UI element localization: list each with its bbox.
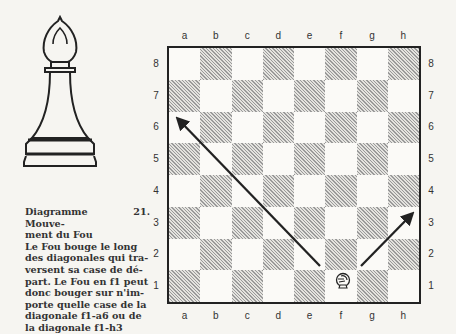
square-d7 — [263, 80, 294, 112]
chessboard — [167, 46, 421, 304]
rank-label: 1 — [425, 280, 437, 291]
square-d8 — [263, 48, 294, 80]
square-c2 — [232, 239, 263, 271]
rank-label: 7 — [150, 90, 162, 101]
square-a2 — [169, 239, 200, 271]
square-d1 — [263, 270, 294, 302]
square-b7 — [200, 80, 231, 112]
square-b2 — [200, 239, 231, 271]
rank-label: 6 — [150, 121, 162, 132]
rank-label: 8 — [425, 58, 437, 69]
square-d4 — [263, 175, 294, 207]
rank-label: 6 — [425, 121, 437, 132]
square-h1 — [388, 270, 419, 302]
rank-label: 8 — [150, 58, 162, 69]
square-e7 — [294, 80, 325, 112]
file-label: g — [362, 30, 382, 41]
square-f6 — [325, 112, 356, 144]
square-h6 — [388, 112, 419, 144]
file-label: a — [175, 30, 195, 41]
square-c8 — [232, 48, 263, 80]
square-f7 — [325, 80, 356, 112]
square-e5 — [294, 143, 325, 175]
square-g7 — [357, 80, 388, 112]
square-d6 — [263, 112, 294, 144]
square-c1 — [232, 270, 263, 302]
file-label: e — [300, 310, 320, 321]
rank-label: 4 — [425, 185, 437, 196]
square-d2 — [263, 239, 294, 271]
square-a4 — [169, 175, 200, 207]
square-a5 — [169, 143, 200, 175]
square-c6 — [232, 112, 263, 144]
square-e8 — [294, 48, 325, 80]
square-g6 — [357, 112, 388, 144]
square-e2 — [294, 239, 325, 271]
square-g2 — [357, 239, 388, 271]
square-g5 — [357, 143, 388, 175]
square-f1 — [325, 270, 356, 302]
rank-label: 7 — [425, 90, 437, 101]
file-label: b — [206, 310, 226, 321]
file-label: h — [393, 310, 413, 321]
square-f8 — [325, 48, 356, 80]
rank-label: 3 — [425, 217, 437, 228]
square-b6 — [200, 112, 231, 144]
square-f3 — [325, 207, 356, 239]
square-h3 — [388, 207, 419, 239]
square-c7 — [232, 80, 263, 112]
square-d5 — [263, 143, 294, 175]
square-a7 — [169, 80, 200, 112]
rank-label: 3 — [150, 217, 162, 228]
square-e6 — [294, 112, 325, 144]
file-label: h — [393, 30, 413, 41]
square-b4 — [200, 175, 231, 207]
square-a1 — [169, 270, 200, 302]
square-g1 — [357, 270, 388, 302]
rank-label: 4 — [150, 185, 162, 196]
square-f5 — [325, 143, 356, 175]
file-label: e — [300, 30, 320, 41]
rank-label: 5 — [425, 153, 437, 164]
square-d3 — [263, 207, 294, 239]
file-label: d — [268, 30, 288, 41]
file-label: c — [237, 30, 257, 41]
file-label: f — [331, 30, 351, 41]
file-label: d — [268, 310, 288, 321]
square-b3 — [200, 207, 231, 239]
file-label: c — [237, 310, 257, 321]
square-h8 — [388, 48, 419, 80]
square-f2 — [325, 239, 356, 271]
file-label: a — [175, 310, 195, 321]
square-h2 — [388, 239, 419, 271]
square-c5 — [232, 143, 263, 175]
file-label: f — [331, 310, 351, 321]
file-label: g — [362, 310, 382, 321]
rank-label: 5 — [150, 153, 162, 164]
square-h4 — [388, 175, 419, 207]
square-f4 — [325, 175, 356, 207]
square-h7 — [388, 80, 419, 112]
rank-label: 1 — [150, 280, 162, 291]
square-e1 — [294, 270, 325, 302]
square-a6 — [169, 112, 200, 144]
square-b5 — [200, 143, 231, 175]
square-g3 — [357, 207, 388, 239]
rank-label: 2 — [425, 248, 437, 259]
file-label: b — [206, 30, 226, 41]
square-c4 — [232, 175, 263, 207]
square-b1 — [200, 270, 231, 302]
square-h5 — [388, 143, 419, 175]
square-e3 — [294, 207, 325, 239]
square-b8 — [200, 48, 231, 80]
square-g8 — [357, 48, 388, 80]
square-a3 — [169, 207, 200, 239]
square-a8 — [169, 48, 200, 80]
square-g4 — [357, 175, 388, 207]
square-e4 — [294, 175, 325, 207]
square-c3 — [232, 207, 263, 239]
rank-label: 2 — [150, 248, 162, 259]
